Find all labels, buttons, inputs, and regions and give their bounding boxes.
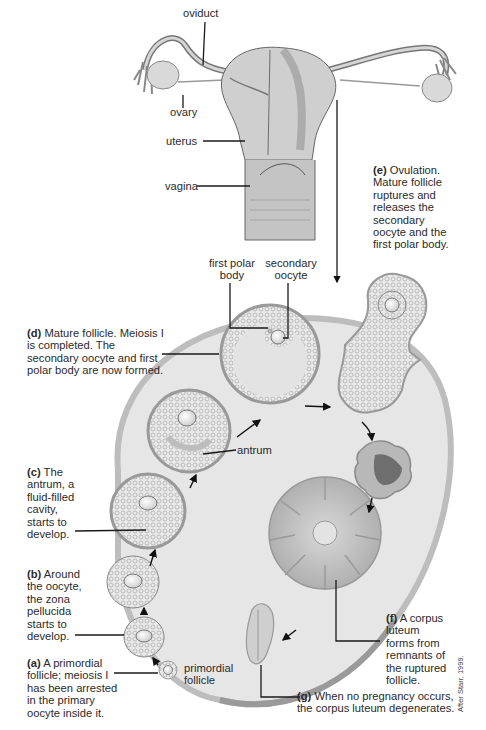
caption-b: (b) Around the oocyte, the zona pellucid… [27,568,87,642]
corpus-luteum [269,477,381,590]
image-credit: After Starr, 1999. [456,655,465,712]
caption-c: (c) The antrum, a fluid-filled cavity, s… [27,466,87,540]
caption-e: (e) Ovulation. Mature follicle ruptures … [373,164,458,251]
caption-c-tag: (c) [27,466,41,478]
label-vagina: vagina [165,180,198,192]
antral-follicle [148,390,230,472]
label-first-polar-body: first polar body [208,257,256,282]
caption-e-text: Ovulation. Mature follicle ruptures and … [373,164,449,250]
label-oviduct: oviduct [183,7,218,19]
caption-e-tag: (e) [373,164,387,176]
caption-b-tag: (b) [27,568,41,580]
caption-g-text: When no pregnancy occurs, the corpus lut… [297,690,454,714]
mature-follicle [221,305,319,403]
primary-follicle [124,617,164,657]
label-uterus: uterus [166,135,197,147]
caption-d: (d) Mature follicle. Meiosis I is comple… [27,327,167,377]
label-primordial-follicle: primordial follicle [184,662,234,687]
secondary-follicle [111,474,185,548]
caption-d-text: Mature follicle. Meiosis I is completed.… [27,327,164,376]
label-secondary-oocyte: secondary oocyte [262,257,320,282]
caption-g-tag: (g) [297,690,311,702]
caption-a: (a) A primordial follicle; meiosis I has… [27,657,123,719]
caption-d-tag: (d) [27,327,41,339]
label-antrum: antrum [237,444,272,456]
caption-f-tag: (f) [386,612,397,624]
caption-f: (f) A corpus luteum forms from remnants … [386,612,448,686]
leader-oviduct [203,22,205,65]
caption-a-tag: (a) [27,657,41,669]
caption-a-text: A primordial follicle; meiosis I has bee… [27,657,117,719]
primordial-follicle [159,661,177,679]
caption-g: (g) When no pregnancy occurs, the corpus… [297,690,457,715]
label-ovary: ovary [170,106,197,118]
